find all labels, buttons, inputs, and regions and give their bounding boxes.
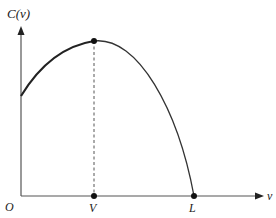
tick-label-v: V bbox=[89, 201, 98, 215]
cost-function-diagram: C(v) v O V L bbox=[0, 0, 276, 218]
curve-rising-segment bbox=[21, 41, 94, 96]
curve-falling-segment bbox=[94, 41, 194, 196]
x-axis-label: v bbox=[267, 189, 273, 203]
v-point bbox=[91, 193, 97, 199]
l-point bbox=[191, 193, 197, 199]
origin-label: O bbox=[5, 200, 14, 214]
x-axis-arrow-icon bbox=[255, 193, 264, 200]
y-axis-label: C(v) bbox=[7, 6, 30, 21]
y-axis-arrow-icon bbox=[18, 26, 25, 35]
peak-point bbox=[91, 38, 97, 44]
tick-label-l: L bbox=[188, 201, 196, 215]
